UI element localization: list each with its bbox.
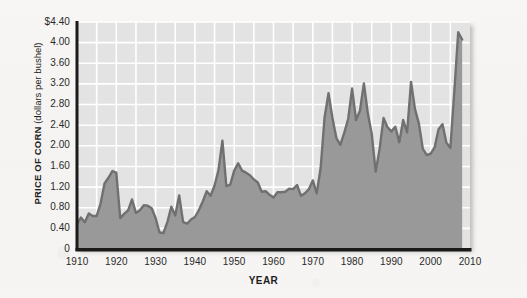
x-tick-label: 1990 (371, 256, 411, 267)
x-tick-label: 1960 (254, 256, 294, 267)
y-axis-title-bold: PRICE OF CORN (32, 126, 43, 204)
y-tick-label: 0 (26, 243, 70, 254)
x-tick-label: 1910 (57, 256, 97, 267)
x-tick-label: 1920 (96, 256, 136, 267)
x-axis-spine (76, 248, 472, 252)
y-tick-label: 0.40 (26, 222, 70, 233)
x-axis-title: YEAR (0, 275, 527, 286)
y-axis-spine (76, 21, 79, 251)
chart-page: 00.400.801.201.602.002.402.803.203.604.0… (0, 0, 527, 298)
x-tick-label: 1950 (214, 256, 254, 267)
x-tick-label: 2000 (411, 256, 451, 267)
x-tick-label: 2010 (450, 256, 490, 267)
x-tick-label: 1930 (136, 256, 176, 267)
y-axis-title: PRICE OF CORN (dollars per bushel) (32, 24, 43, 224)
x-tick-label: 1970 (293, 256, 333, 267)
y-axis-title-units: (dollars per bushel) (32, 42, 43, 123)
x-tick-label: 1940 (175, 256, 215, 267)
corn-price-chart (0, 0, 527, 298)
x-tick-label: 1980 (332, 256, 372, 267)
